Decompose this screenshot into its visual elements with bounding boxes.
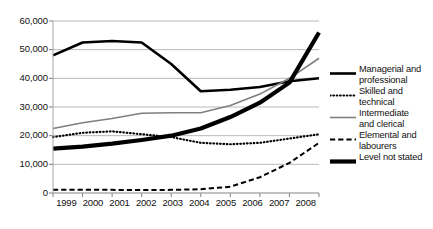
- legend-item[interactable]: Managerial and professional: [330, 64, 433, 86]
- legend-item-label: Level not stated: [359, 152, 422, 163]
- x-axis-labels: 1999200020012002200320042005200620072008: [53, 197, 319, 213]
- y-axis-tick-label: 40,000: [2, 73, 48, 83]
- legend-item[interactable]: Elemental and labourers: [330, 130, 433, 152]
- legend-line-swatch-icon: [330, 112, 356, 123]
- x-axis-tick-label: 2003: [159, 197, 186, 213]
- legend-item-label: Elemental and labourers: [359, 130, 417, 152]
- x-axis-tick-label: 2002: [133, 197, 160, 213]
- x-axis-tick-label: 2000: [80, 197, 107, 213]
- y-axis-tick-label: 30,000: [2, 102, 48, 112]
- y-axis-tick-label: 20,000: [2, 130, 48, 140]
- x-axis-tick-label: 2007: [266, 197, 293, 213]
- legend-item[interactable]: Skilled and technical: [330, 86, 433, 108]
- series-lines: [53, 32, 319, 190]
- legend-line-swatch-icon: [330, 134, 356, 145]
- legend-item-label: Intermediate and clerical: [359, 108, 409, 130]
- legend-item[interactable]: Intermediate and clerical: [330, 108, 433, 130]
- plot-svg: [0, 0, 330, 229]
- x-axis-tick-label: 2001: [106, 197, 133, 213]
- legend-line-swatch-icon: [330, 68, 356, 79]
- x-axis-tick-label: 1999: [53, 197, 80, 213]
- series-line-elemental-and-labourers: [53, 143, 319, 190]
- y-axis-labels: 60,00050,00040,00030,00020,00010,0000: [0, 0, 48, 229]
- legend-item-label: Skilled and technical: [359, 86, 403, 108]
- plot-area: [0, 0, 330, 229]
- y-axis-tick-label: 0: [2, 188, 48, 198]
- x-axis-tick-label: 2008: [292, 197, 319, 213]
- y-axis-tick-label: 10,000: [2, 159, 48, 169]
- legend-line-swatch-icon: [330, 90, 356, 101]
- x-axis-tick-label: 2004: [186, 197, 213, 213]
- x-axis-tick-label: 2005: [213, 197, 240, 213]
- line-chart: 60,00050,00040,00030,00020,00010,0000 19…: [0, 0, 433, 229]
- legend-line-swatch-icon: [330, 156, 356, 167]
- series-line-intermediate-and-clerical: [53, 58, 319, 128]
- y-axis-tick-label: 50,000: [2, 44, 48, 54]
- axis-ticks: [49, 21, 319, 197]
- x-axis-tick-label: 2006: [239, 197, 266, 213]
- legend-item-label: Managerial and professional: [359, 64, 421, 86]
- y-axis-tick-label: 60,000: [2, 16, 48, 26]
- legend-item[interactable]: Level not stated: [330, 152, 433, 167]
- chart-legend: Managerial and professionalSkilled and t…: [330, 64, 433, 167]
